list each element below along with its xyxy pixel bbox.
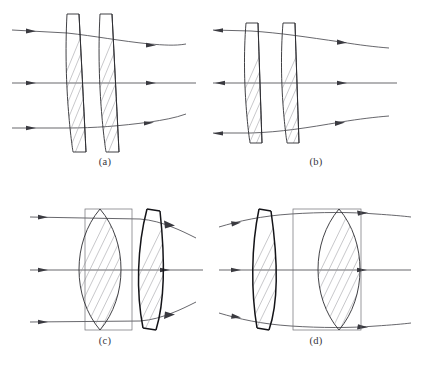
- upper-ray: [213, 28, 389, 48]
- lower-ray: [12, 114, 186, 130]
- axial-ray: [213, 81, 397, 85]
- panel-a-label: (a): [0, 156, 210, 167]
- panel-a: (a): [0, 0, 210, 187]
- lower-ray: [213, 116, 389, 136]
- upper-ray: [30, 215, 196, 238]
- optics-figure: (a): [0, 0, 421, 374]
- rear-meniscus-lens: [251, 0, 356, 160]
- front-meniscus-lens: [214, 0, 319, 160]
- axial-ray: [12, 81, 196, 85]
- panel-b-label: (b): [211, 156, 421, 167]
- upper-ray: [219, 210, 411, 227]
- panel-c-label: (c): [0, 335, 210, 346]
- panel-b: (b): [211, 0, 421, 187]
- biconvex-lens-in-blank: [42, 187, 170, 352]
- panel-c: (c): [0, 187, 210, 374]
- lower-ray: [219, 313, 411, 330]
- front-meniscus-lens: [26, 0, 138, 170]
- panel-d: (d): [211, 187, 421, 374]
- axial-ray: [219, 268, 411, 272]
- rear-meniscus-lens: [102, 187, 210, 352]
- panel-d-label: (d): [211, 335, 421, 346]
- rear-meniscus-lens: [59, 0, 171, 170]
- lower-ray: [30, 302, 196, 324]
- axial-ray: [30, 268, 203, 272]
